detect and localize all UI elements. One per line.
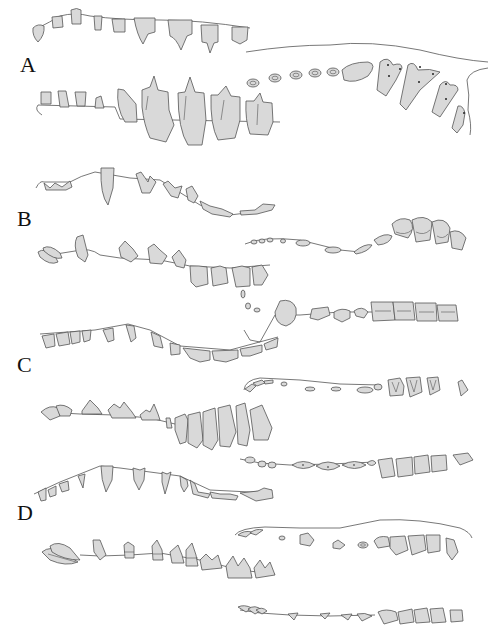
panel-c-occlusal-upper — [244, 377, 468, 397]
panel-d-occlusal-lower — [238, 606, 463, 624]
panel-c: C — [17, 324, 473, 478]
panel-a-occlusal — [246, 43, 488, 135]
panel-b-lower-lateral — [38, 235, 270, 287]
panel-b-occlusal-upper — [245, 217, 466, 254]
panel-label-a: A — [20, 52, 36, 77]
panel-label-b: B — [17, 206, 32, 231]
panel-b-occlusal-lower — [241, 290, 458, 342]
panel-a: A — [20, 9, 488, 146]
panel-a-lower-lateral — [37, 76, 280, 145]
dentition-figure: A — [0, 0, 500, 635]
panel-c-lower-lateral — [41, 400, 272, 450]
panel-d-lower-lateral — [42, 540, 275, 578]
panel-b: B — [17, 168, 466, 342]
panel-label-c: C — [17, 352, 32, 377]
panel-label-d: D — [17, 500, 33, 525]
panel-d: D — [17, 466, 472, 624]
panel-a-upper-lateral — [33, 9, 250, 54]
panel-d-upper-lateral — [34, 466, 273, 501]
panel-c-upper-lateral — [40, 324, 278, 362]
panel-d-occlusal-upper — [235, 520, 472, 560]
panel-c-occlusal-lower — [240, 453, 473, 478]
panel-b-upper-lateral — [36, 168, 275, 217]
